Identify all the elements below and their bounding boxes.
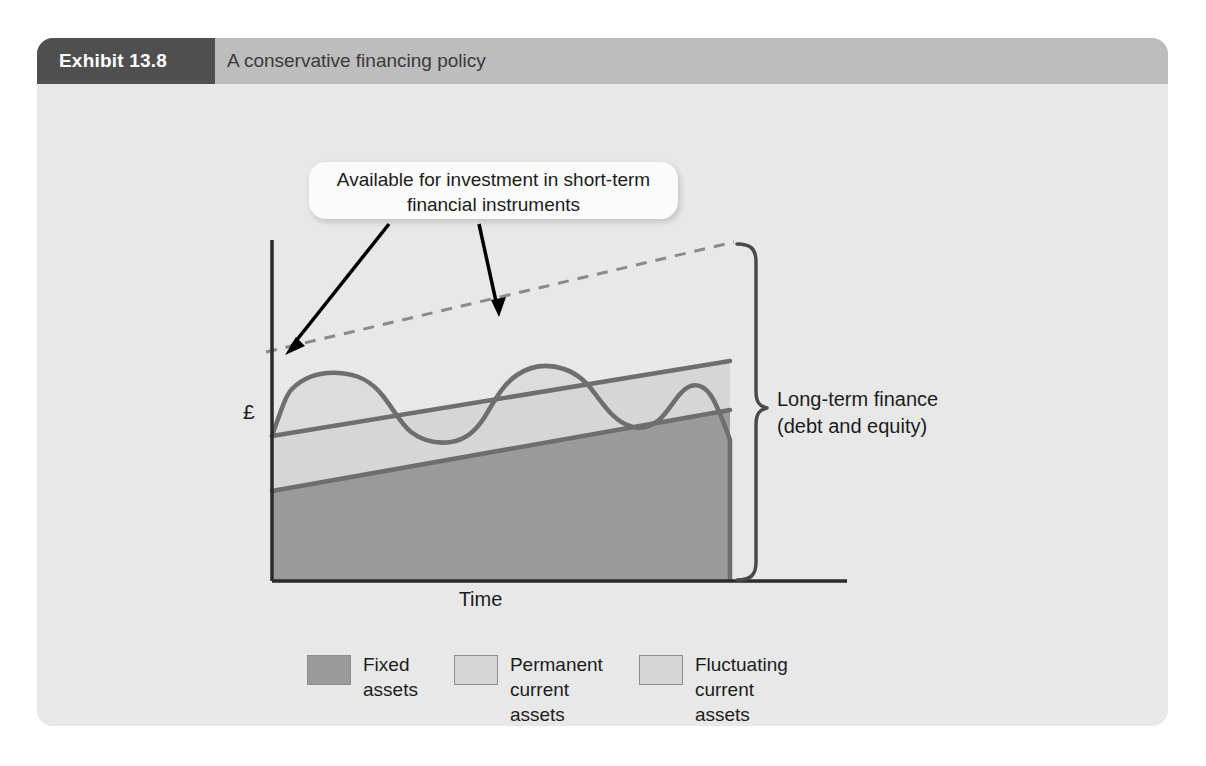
y-axis-label: £ [243, 400, 255, 424]
exhibit-number-tab: Exhibit 13.8 [37, 38, 215, 84]
legend-label-permanent-current-assets: Permanent current assets [510, 652, 603, 727]
chart-legend: Fixed assets Permanent current assets Fl… [307, 652, 824, 727]
exhibit-header: Exhibit 13.8 A conservative financing po… [37, 38, 1168, 84]
legend-swatch-fixed-assets [307, 655, 351, 685]
legend-label-fixed-assets: Fixed assets [363, 652, 418, 702]
legend-item-permanent-current-assets: Permanent current assets [454, 652, 603, 727]
legend-swatch-permanent-current-assets [454, 655, 498, 685]
legend-item-fixed-assets: Fixed assets [307, 652, 418, 702]
callout-bubble: Available for investment in short-term f… [309, 162, 678, 219]
long-term-finance-label-line-2: (debt and equity) [777, 413, 938, 440]
callout-line-2: financial instruments [407, 192, 580, 217]
legend-label-fluctuating-current-assets: Fluctuating current assets [695, 652, 788, 727]
callout-arrow-left [285, 224, 389, 355]
long-term-finance-label-line-1: Long-term finance [777, 386, 938, 413]
exhibit-number-label: Exhibit 13.8 [59, 50, 167, 72]
callout-line-1: Available for investment in short-term [337, 167, 650, 192]
exhibit-title: A conservative financing policy [227, 38, 486, 84]
long-term-finance-label: Long-term finance (debt and equity) [777, 386, 938, 440]
legend-swatch-fluctuating-current-assets [639, 655, 683, 685]
chart-area: Available for investment in short-term f… [37, 84, 1168, 726]
long-term-finance-dashed-line [266, 242, 734, 352]
exhibit-panel: Exhibit 13.8 A conservative financing po… [37, 38, 1168, 726]
long-term-finance-brace [737, 244, 767, 580]
legend-item-fluctuating-current-assets: Fluctuating current assets [639, 652, 788, 727]
callout-arrow-right [479, 224, 506, 317]
